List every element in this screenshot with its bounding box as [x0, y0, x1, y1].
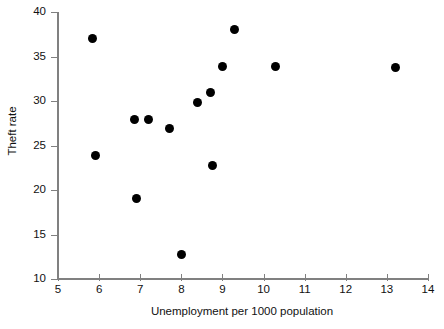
- data-point: [218, 62, 227, 71]
- data-point: [91, 151, 100, 160]
- data-point: [193, 98, 202, 107]
- data-point: [206, 88, 215, 97]
- data-point: [177, 250, 186, 259]
- y-axis-title: Theft rate: [6, 91, 18, 171]
- plot-area: [0, 0, 444, 329]
- data-point: [144, 115, 153, 124]
- data-point: [130, 115, 139, 124]
- scatter-chart: 10152025303540 567891011121314 Theft rat…: [0, 0, 444, 329]
- data-point: [132, 194, 141, 203]
- x-axis-title: Unemployment per 1000 population: [0, 305, 444, 317]
- data-point: [208, 161, 217, 170]
- data-point: [165, 124, 174, 133]
- data-point: [391, 63, 400, 72]
- data-point: [230, 25, 239, 34]
- data-point: [88, 34, 97, 43]
- data-point: [271, 62, 280, 71]
